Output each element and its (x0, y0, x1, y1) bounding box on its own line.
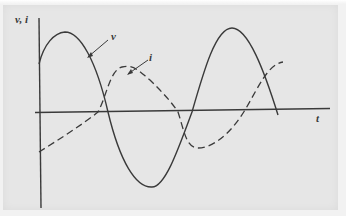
i-arrowhead-icon (127, 69, 133, 75)
voltage-curve-v (39, 28, 278, 187)
voltage-label: v (111, 31, 116, 42)
figure-page: v, i v i t (0, 0, 346, 216)
x-axis (35, 109, 330, 113)
current-label: i (149, 52, 152, 63)
x-axis-label: t (316, 113, 319, 124)
waveform-plot (0, 0, 346, 216)
current-curve-i (39, 62, 283, 152)
y-axis-label: v, i (15, 14, 28, 25)
